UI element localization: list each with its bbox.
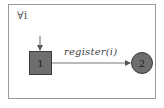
state-1-square: 1 bbox=[29, 51, 52, 75]
transition-label: register(i) bbox=[64, 46, 117, 57]
state-2-circle: 2 bbox=[131, 52, 153, 74]
state-1-label: 1 bbox=[37, 58, 43, 69]
state-2-label: 2 bbox=[139, 58, 145, 69]
